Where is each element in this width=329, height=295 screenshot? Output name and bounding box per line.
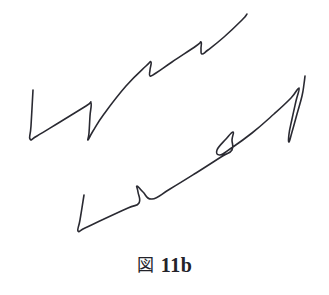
lower-curve-stroke — [78, 76, 305, 232]
ink-strokes-group — [30, 14, 305, 232]
caption-number-label: 11b — [161, 255, 193, 275]
figure-caption: 図 11b — [0, 248, 329, 282]
figure-container: 図 11b — [0, 0, 329, 295]
freehand-sketch-canvas — [0, 0, 329, 258]
caption-kanji-label: 図 — [137, 257, 154, 274]
upper-curve-stroke — [30, 14, 247, 140]
